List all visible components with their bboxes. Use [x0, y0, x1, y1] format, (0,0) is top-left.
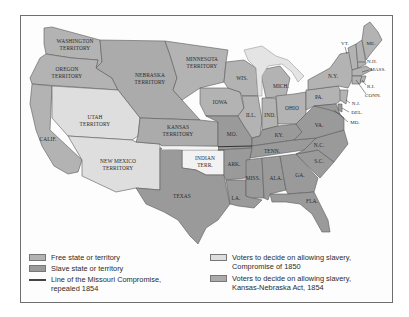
label-oregon-2: TERRITORY — [52, 73, 83, 79]
label-miss: MISS. — [246, 175, 260, 181]
region-new-york — [308, 52, 354, 90]
label-washington-2: TERRITORY — [60, 45, 91, 51]
label-fla: FLA. — [306, 198, 318, 204]
label-tenn: TENN. — [264, 148, 280, 154]
label-wis: WIS. — [236, 75, 248, 81]
label-new-mexico-2: TERRITORY — [103, 165, 134, 171]
legend-missouri-label-1: Line of the Missouri Compromise, — [51, 275, 161, 284]
label-pa: PA. — [315, 94, 323, 100]
label-utah-2: TERRITORY — [80, 121, 111, 127]
legend-kn-label-2: Kansas-Nebraska Act, 1854 — [232, 283, 351, 292]
legend-free: Free state or territory — [29, 253, 120, 262]
label-ga: GA. — [295, 172, 304, 178]
label-washington: WASHINGTON — [57, 38, 94, 44]
label-va: VA. — [315, 122, 324, 128]
legend-free-label: Free state or territory — [51, 253, 120, 262]
legend-compromise-label-2: Compromise of 1850 — [232, 262, 351, 271]
label-ri: R.I. — [367, 84, 375, 89]
label-md: MD. — [350, 120, 360, 125]
label-iowa: IOWA — [213, 99, 227, 105]
legend-compromise-1850: Voters to decide on allowing slavery, Co… — [210, 253, 351, 271]
legend-kn-label-1: Voters to decide on allowing slavery, — [232, 274, 351, 283]
legend-missouri-line: Line of the Missouri Compromise, repeale… — [29, 275, 161, 293]
label-la: LA. — [232, 195, 241, 201]
label-kansas: KANSAS — [167, 124, 189, 130]
label-del: DEL. — [351, 110, 362, 115]
free-swatch-icon — [29, 254, 46, 261]
label-ark: ARK. — [227, 161, 240, 167]
label-sc: S.C. — [314, 158, 324, 164]
label-utah: UTAH — [88, 114, 103, 120]
label-minnesota-2: TERRITORY — [187, 63, 218, 69]
label-minnesota: MINNESOTA — [186, 56, 218, 62]
label-nebraska: NEBRASKA — [135, 72, 165, 78]
legend-compromise-label-1: Voters to decide on allowing slavery, — [232, 253, 351, 262]
label-vt: VT. — [341, 41, 349, 46]
line-swatch-icon — [29, 279, 46, 281]
label-indian: INDIAN — [195, 155, 215, 161]
label-conn: CONN. — [365, 93, 381, 98]
label-calif: CALIF. — [39, 136, 56, 142]
label-mo: MO. — [227, 131, 237, 137]
legend-slave: Slave state or territory — [29, 264, 123, 273]
label-ill: ILL. — [246, 112, 256, 118]
label-nj: N.J. — [352, 101, 360, 106]
label-me: ME. — [366, 41, 375, 46]
region-new-jersey — [340, 90, 348, 104]
label-mich: MICH. — [273, 83, 289, 89]
label-ala: ALA. — [270, 175, 283, 181]
legend-missouri-label-2: repealed 1854 — [51, 284, 161, 293]
label-oregon: OREGON — [55, 66, 78, 72]
label-nc: N.C. — [314, 142, 325, 148]
label-texas: TEXAS — [173, 193, 191, 199]
compromise-strip — [162, 147, 218, 150]
label-nh: N.H. — [367, 59, 377, 64]
label-ind: IND. — [264, 112, 275, 118]
slave-swatch-icon — [29, 265, 46, 272]
compromise-swatch-icon — [210, 254, 227, 261]
region-florida — [270, 192, 330, 232]
label-mass: MASS. — [370, 67, 385, 72]
label-ky: KY. — [275, 132, 284, 138]
legend-slave-label: Slave state or territory — [51, 264, 123, 273]
label-ny: N.Y. — [328, 73, 338, 79]
region-new-mexico-territory — [68, 136, 160, 192]
label-indian-2: TERR. — [197, 162, 213, 168]
label-ohio: OHIO — [285, 105, 299, 111]
label-nebraska-2: TERRITORY — [135, 79, 166, 85]
map-legend: Free state or territory Slave state or t… — [29, 253, 389, 299]
label-kansas-2: TERRITORY — [163, 131, 194, 137]
label-new-mexico: NEW MEXICO — [100, 158, 136, 164]
legend-kansas-nebraska: Voters to decide on allowing slavery, Ka… — [210, 274, 351, 292]
kansas-nebraska-swatch-icon — [210, 275, 227, 282]
